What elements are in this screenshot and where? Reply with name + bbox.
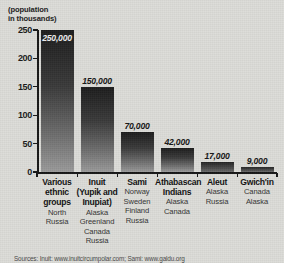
category-name-line: Aleut xyxy=(195,177,239,187)
category-name-line: Sami xyxy=(115,177,159,187)
category-region: Norway xyxy=(115,187,159,197)
category-region: North xyxy=(35,208,79,218)
category-region: Alaska xyxy=(155,197,199,207)
category-region: Russia xyxy=(195,197,239,207)
bar-value-label: 9,000 xyxy=(247,156,268,166)
category-region: Sweden xyxy=(115,197,159,207)
category-region: Alaska xyxy=(195,187,239,197)
category-region: Canada xyxy=(75,227,119,237)
y-tick-label: 200 xyxy=(18,53,32,63)
category-region: Alaska xyxy=(75,208,119,218)
bar xyxy=(241,167,274,172)
bar-value-label: 42,000 xyxy=(164,137,189,147)
category-label: Inuit(Yupik andInupiat)AlaskaGreenlandCa… xyxy=(75,177,119,246)
category-region: Greenland xyxy=(75,217,119,227)
y-tick-mark xyxy=(33,143,38,144)
bar-value-label: 17,000 xyxy=(204,151,229,161)
bar xyxy=(41,30,74,172)
y-tick-label: 0 xyxy=(27,167,32,177)
category-label: AleutAlaskaRussia xyxy=(195,177,239,206)
category-name-line: Inupiat) xyxy=(75,197,119,207)
category-region: Alaska xyxy=(235,197,279,207)
y-tick-label: 50 xyxy=(23,139,32,149)
category-region: Canada xyxy=(155,207,199,217)
category-label: Gwich'inCanadaAlaska xyxy=(235,177,279,206)
category-region: Finland xyxy=(115,206,159,216)
category-name-line: Gwich'in xyxy=(235,177,279,187)
bar xyxy=(121,132,154,172)
category-region: Russia xyxy=(115,216,159,226)
category-region: Canada xyxy=(235,187,279,197)
y-tick-mark xyxy=(33,115,38,116)
category-name-line: Athabascan xyxy=(155,177,199,187)
category-name-line: Various xyxy=(35,177,79,187)
y-tick-label: 150 xyxy=(18,82,32,92)
y-axis-line xyxy=(37,30,39,173)
category-region: Russia xyxy=(35,217,79,227)
y-axis-title: (population in thousands) xyxy=(8,5,56,24)
category-label: AthabascanIndiansAlaskaCanada xyxy=(155,177,199,217)
category-name-line: Indians xyxy=(155,187,199,197)
y-tick-label: 100 xyxy=(18,110,32,120)
source-note: Sources: Inuit: www.inuitcircumpolar.com… xyxy=(14,255,185,262)
category-name-line: ethnic xyxy=(35,187,79,197)
y-tick-label: 250 xyxy=(18,25,32,35)
category-label: VariousethnicgroupsNorthRussia xyxy=(35,177,79,227)
bar xyxy=(201,162,234,172)
category-name-line: groups xyxy=(35,197,79,207)
bar-value-label: 70,000 xyxy=(124,121,149,131)
bar xyxy=(161,148,194,172)
bar-value-label: 250,000 xyxy=(42,33,72,43)
category-name-line: Inuit xyxy=(75,177,119,187)
y-tick-mark xyxy=(33,29,38,30)
y-tick-mark xyxy=(33,58,38,59)
category-region: Russia xyxy=(75,236,119,246)
category-name-line: (Yupik and xyxy=(75,187,119,197)
y-tick-mark xyxy=(33,86,38,87)
bar-value-label: 150,000 xyxy=(82,76,112,86)
category-label: SamiNorwaySwedenFinlandRussia xyxy=(115,177,159,226)
bar-chart: (population in thousands) 05010015020025… xyxy=(0,0,284,263)
bar xyxy=(81,87,114,172)
